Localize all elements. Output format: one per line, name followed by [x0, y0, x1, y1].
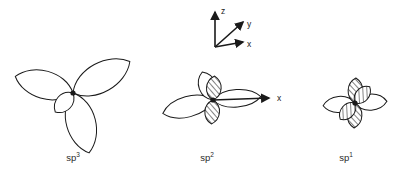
sp2-caption-superscript: 2 — [210, 151, 214, 158]
sp3-caption-superscript: 3 — [76, 151, 80, 158]
sp1-caption: sp1 — [339, 152, 353, 163]
orbital-groups-layer: x — [11, 49, 387, 157]
axis-z-label: z — [221, 6, 225, 16]
sp2-x-axis-label: x — [277, 93, 282, 103]
sp1-caption-base: sp — [339, 152, 349, 163]
sp1-caption-superscript: 1 — [349, 151, 353, 158]
sp2-orbital-diagram: x — [160, 69, 282, 125]
sp2-center-node — [210, 97, 215, 102]
sp2-caption-base: sp — [200, 152, 210, 163]
sp1-center-node — [352, 100, 357, 105]
orbital-hybridization-figure: zyx x sp3sp2sp1 — [0, 0, 397, 179]
axis-triad-layer: zyx — [215, 6, 252, 49]
sp2-caption: sp2 — [200, 152, 214, 163]
axis-x-label: x — [247, 39, 252, 49]
axis-y-label: y — [247, 19, 252, 29]
figure-canvas: zyx x — [0, 0, 397, 179]
sp3-orbital-diagram — [11, 49, 136, 157]
sp3-center-node — [70, 90, 75, 95]
sp3-caption-base: sp — [66, 152, 76, 163]
sp3-caption: sp3 — [66, 152, 80, 163]
sp1-orbital-diagram — [322, 78, 387, 128]
